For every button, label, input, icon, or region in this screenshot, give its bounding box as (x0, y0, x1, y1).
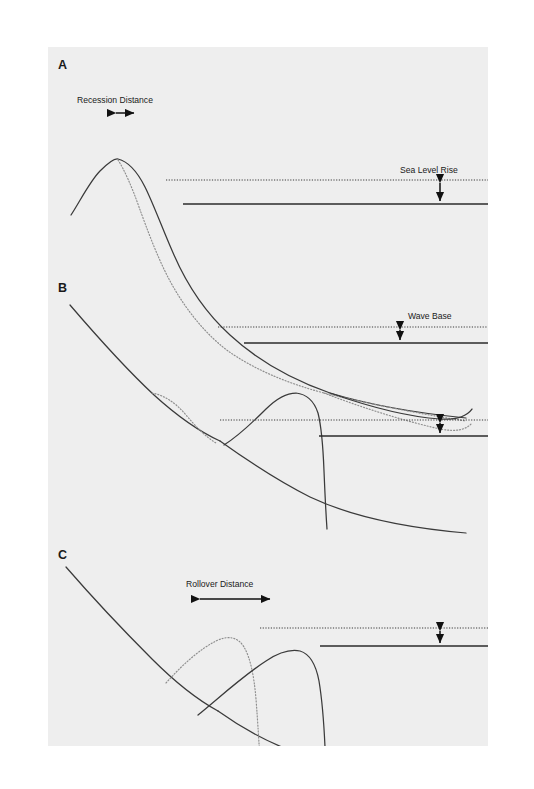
panel-b-remnant-dotted (152, 393, 216, 443)
panel-b-shoreface-lower (220, 441, 466, 533)
panel-a-profile-solid (71, 159, 466, 418)
rollover-distance-label: Rollover Distance (186, 579, 254, 589)
panel-b-letter: B (58, 281, 67, 295)
diagram-panel: A Recession Distance Sea Leve (48, 47, 488, 746)
wave-base-label: Wave Base (408, 311, 452, 321)
panel-b-barrier-solid (224, 393, 327, 529)
panel-a-profile-solid-tail (330, 393, 472, 419)
panel-a-profile-dotted (118, 160, 466, 421)
panel-c-group: C Rollover Distance (58, 548, 488, 746)
panel-b-profile-solid (70, 305, 220, 441)
panel-c-letter: C (58, 548, 67, 562)
panel-c-new-barrier-solid (198, 650, 328, 746)
coastal-response-diagram: A Recession Distance Sea Leve (48, 47, 488, 746)
recession-distance-label: Recession Distance (77, 95, 153, 105)
panel-a-group: A Recession Distance Sea Leve (58, 58, 488, 421)
figure-page: A Recession Distance Sea Leve (0, 0, 534, 789)
figure-frame: A Recession Distance Sea Leve (0, 0, 534, 756)
sea-level-rise-label: Sea Level Rise (400, 165, 458, 175)
panel-a-letter: A (58, 58, 67, 72)
panel-a-lower-group: Wave Base (218, 311, 488, 430)
caption-strip (0, 760, 534, 789)
panel-c-shoreface-lower (218, 711, 466, 746)
